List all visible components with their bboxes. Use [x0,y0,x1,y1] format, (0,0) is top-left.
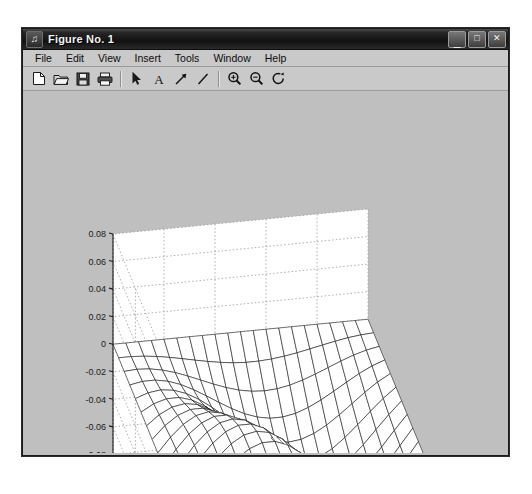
print-figure-icon[interactable] [94,69,115,89]
close-icon: ✕ [489,32,505,47]
figure-window: ♫ Figure No. 1 _ □ ✕ File Edit View Inse… [22,28,509,456]
insert-arrow-icon[interactable] [170,69,191,89]
z-tick-label: 0.06 [88,257,106,267]
close-button[interactable]: ✕ [488,31,506,48]
z-tick-label: -0.08 [85,450,106,453]
insert-text-icon[interactable]: A [148,69,169,89]
zoom-in-icon[interactable] [224,69,245,89]
window-controls: _ □ ✕ [448,31,506,48]
figure-canvas[interactable]: 0.080.060.040.020-0.02-0.04-0.06-0.08-0.… [25,94,506,453]
rotate-3d-icon[interactable] [268,69,289,89]
toolbar: A [23,67,508,91]
z-tick-label: -0.06 [85,422,106,432]
menu-item-view[interactable]: View [91,51,128,66]
svg-text:A: A [154,72,164,86]
menu-item-insert[interactable]: Insert [128,51,168,66]
menu-item-edit[interactable]: Edit [59,51,91,66]
window-title: Figure No. 1 [48,33,448,45]
menu-item-tools[interactable]: Tools [168,51,207,66]
maximize-button[interactable]: □ [468,31,486,48]
separator-2 [218,71,220,87]
menu-item-help[interactable]: Help [258,51,294,66]
minimize-icon: _ [449,32,465,47]
pointer-icon[interactable] [126,69,147,89]
maximize-icon: □ [469,32,485,47]
surface-plot[interactable]: 0.080.060.040.020-0.02-0.04-0.06-0.08-0.… [25,94,506,453]
z-tick-label: 0.02 [88,312,106,322]
z-tick-label: -0.04 [85,395,106,405]
window-titlebar: ♫ Figure No. 1 _ □ ✕ [23,29,508,50]
z-tick-label: 0 [101,339,106,349]
screenshot-root: ♫ Figure No. 1 _ □ ✕ File Edit View Inse… [0,0,532,494]
z-tick-label: 0.04 [88,284,106,294]
minimize-button[interactable]: _ [448,31,466,48]
menu-item-window[interactable]: Window [206,51,257,66]
new-figure-icon[interactable] [28,69,49,89]
open-file-icon[interactable] [50,69,71,89]
save-figure-icon[interactable] [72,69,93,89]
menu-bar: File Edit View Insert Tools Window Help [23,50,508,67]
z-tick-label: -0.02 [85,367,106,377]
insert-line-icon[interactable] [192,69,213,89]
figure-icon: ♫ [26,31,43,48]
menu-item-file[interactable]: File [28,51,59,66]
separator-1 [120,71,122,87]
zoom-out-icon[interactable] [246,69,267,89]
z-tick-label: 0.08 [88,229,106,239]
